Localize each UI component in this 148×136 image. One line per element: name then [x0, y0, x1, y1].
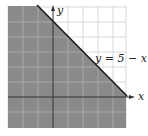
equation-label: y = 5 − x — [94, 52, 148, 65]
x-axis-arrow-icon — [129, 95, 135, 99]
inequality-graph: y x y = 5 − x — [0, 0, 148, 136]
x-axis-label: x — [138, 90, 145, 103]
y-axis-label: y — [56, 4, 64, 17]
